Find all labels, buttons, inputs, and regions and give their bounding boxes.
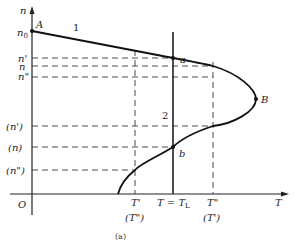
x-axis-end-label: T — [275, 197, 283, 208]
label-a: a — [180, 54, 186, 65]
y-axis-arrow-icon — [30, 6, 35, 14]
n-T-diagram: n T O n0 n' n n" (n') (n) (n") T' (T") T… — [0, 0, 296, 246]
point-A — [30, 29, 34, 33]
tick-T-equals-TL: T = TL — [157, 197, 190, 210]
label-B: B — [260, 94, 268, 105]
label-A: A — [35, 19, 43, 30]
x-axis-arrow-icon — [281, 192, 289, 197]
tick-n0: n0 — [17, 27, 28, 40]
tick-T-dprime-alt: (T") — [125, 212, 144, 223]
curve-1-label: 1 — [73, 22, 79, 33]
point-B — [254, 97, 258, 101]
tick-paren-n-prime: (n') — [6, 121, 23, 132]
tick-T-dprime: T" — [207, 197, 218, 208]
point-a — [171, 56, 175, 60]
tick-T-prime-alt: (T') — [203, 212, 220, 223]
tick-n-dprime: n" — [18, 71, 29, 82]
tick-paren-n-dprime: (n") — [6, 165, 25, 176]
point-b — [171, 145, 175, 149]
label-b: b — [179, 148, 185, 159]
origin-label: O — [18, 199, 26, 210]
tick-T-prime: T' — [131, 197, 140, 208]
dashed-guides — [32, 50, 213, 194]
y-axis-label: n — [20, 5, 26, 16]
tick-paren-n: (n) — [8, 142, 22, 153]
axes — [10, 6, 289, 215]
figure-caption: (a) — [115, 232, 126, 241]
line-2-label: 2 — [162, 110, 168, 121]
